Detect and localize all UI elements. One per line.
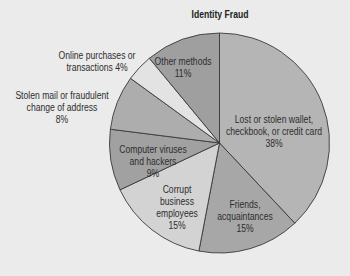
- label-line: transactions 4%: [58, 62, 135, 74]
- label-value: 38%: [222, 138, 325, 150]
- label-line: business: [151, 196, 203, 208]
- label-value: 15%: [211, 223, 280, 235]
- label-line: Friends,: [211, 199, 280, 211]
- label-value: 9%: [114, 168, 191, 180]
- chart-title: Identity Fraud: [177, 9, 263, 20]
- label-corrupt: Corrupt business employees 15%: [151, 184, 203, 232]
- label-line: checkbook, or credit card: [222, 126, 325, 138]
- label-line: employees: [151, 208, 203, 220]
- label-other: Other methods 11%: [155, 56, 212, 80]
- label-online: Online purchases or transactions 4%: [58, 50, 135, 74]
- label-line: Stolen mail or fraudulent: [14, 90, 110, 102]
- label-computer: Computer viruses and hackers 9%: [114, 144, 191, 180]
- label-value: 11%: [155, 68, 212, 80]
- label-line: Online purchases or: [58, 50, 135, 62]
- label-lost-wallet: Lost or stolen wallet, checkbook, or cre…: [222, 114, 325, 150]
- label-line: Other methods: [155, 56, 212, 68]
- label-line: Lost or stolen wallet,: [222, 114, 325, 126]
- label-line: Corrupt: [151, 184, 203, 196]
- label-line: acquaintances: [211, 211, 280, 223]
- label-line: Computer viruses: [114, 144, 191, 156]
- label-value: 15%: [151, 220, 203, 232]
- label-line: change of address: [14, 102, 110, 114]
- label-value: 8%: [14, 114, 110, 126]
- label-stolen-mail: Stolen mail or fraudulent change of addr…: [14, 90, 110, 126]
- label-line: and hackers: [114, 156, 191, 168]
- label-friends: Friends, acquaintances 15%: [211, 199, 280, 235]
